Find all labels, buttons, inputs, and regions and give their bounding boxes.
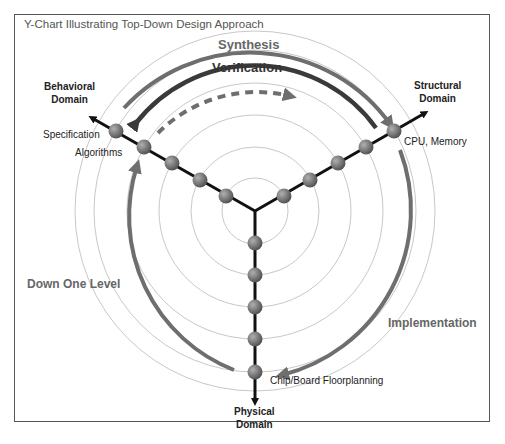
axes <box>92 113 425 402</box>
physical-domain-label: Physical Domain <box>234 405 275 431</box>
down-one-level-arrow <box>129 166 234 370</box>
floorplanning-label: Chip/Board Floorplanning <box>270 375 383 386</box>
implementation-label: Implementation <box>388 316 477 330</box>
algorithms-label: Algorithms <box>75 147 122 158</box>
down-one-level-label: Down One Level <box>27 277 120 291</box>
cpu-memory-label: CPU, Memory <box>404 136 467 147</box>
dashed-arrow <box>158 92 290 133</box>
diagram-title: Y-Chart Illustrating Top-Down Design App… <box>24 18 264 30</box>
verification-label: Verification <box>212 60 282 75</box>
structural-domain-label: Structural Domain <box>414 79 461 105</box>
specification-label: Specification <box>43 129 100 140</box>
synthesis-label: Synthesis <box>218 37 279 52</box>
behavioral-domain-label: Behavioral Domain <box>44 80 95 106</box>
